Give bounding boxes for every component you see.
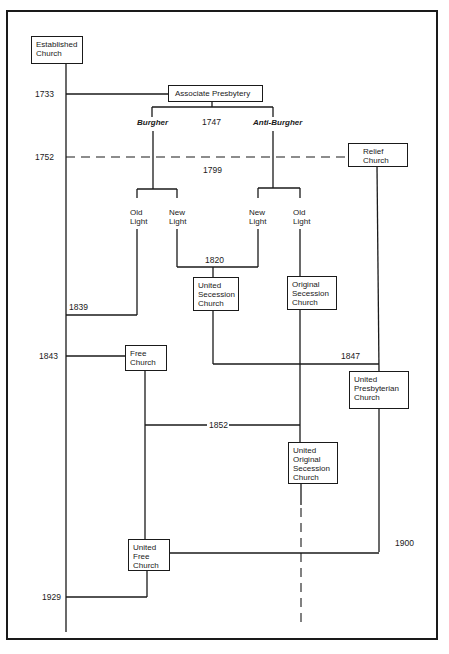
- year-1839: 1839: [69, 303, 88, 312]
- year-1929: 1929: [42, 593, 61, 602]
- label-burgher-old-light: Old Light: [130, 208, 147, 226]
- label-burgher-new-light: New Light: [169, 208, 186, 226]
- year-1847: 1847: [341, 352, 360, 361]
- box-established-church: Established Church: [31, 36, 83, 64]
- label-burgher: Burgher: [137, 118, 168, 127]
- box-relief-church: Relief Church: [348, 143, 408, 167]
- year-1733: 1733: [35, 90, 54, 99]
- box-original-secession-church: Original Secession Church: [287, 276, 337, 310]
- label-anti-burgher-old-light: Old Light: [293, 208, 310, 226]
- year-1752: 1752: [35, 153, 54, 162]
- box-united-original-secession-church: United Original Secession Church: [288, 442, 338, 484]
- box-free-church: Free Church: [125, 345, 167, 371]
- box-united-free-church: United Free Church: [128, 539, 170, 571]
- year-1799: 1799: [203, 166, 222, 175]
- box-united-secession-church: United Secession Church: [193, 277, 239, 311]
- year-1843: 1843: [39, 352, 58, 361]
- box-united-presbyterian-church: United Presbyterian Church: [349, 371, 409, 409]
- box-associate-presbytery: Associate Presbytery: [168, 85, 263, 102]
- year-1820: 1820: [205, 256, 224, 265]
- year-1900: 1900: [395, 539, 414, 548]
- label-anti-burgher-new-light: New Light: [249, 208, 266, 226]
- year-1747: 1747: [202, 118, 221, 127]
- label-anti-burgher: Anti-Burgher: [253, 118, 302, 127]
- year-1852: 1852: [209, 421, 228, 430]
